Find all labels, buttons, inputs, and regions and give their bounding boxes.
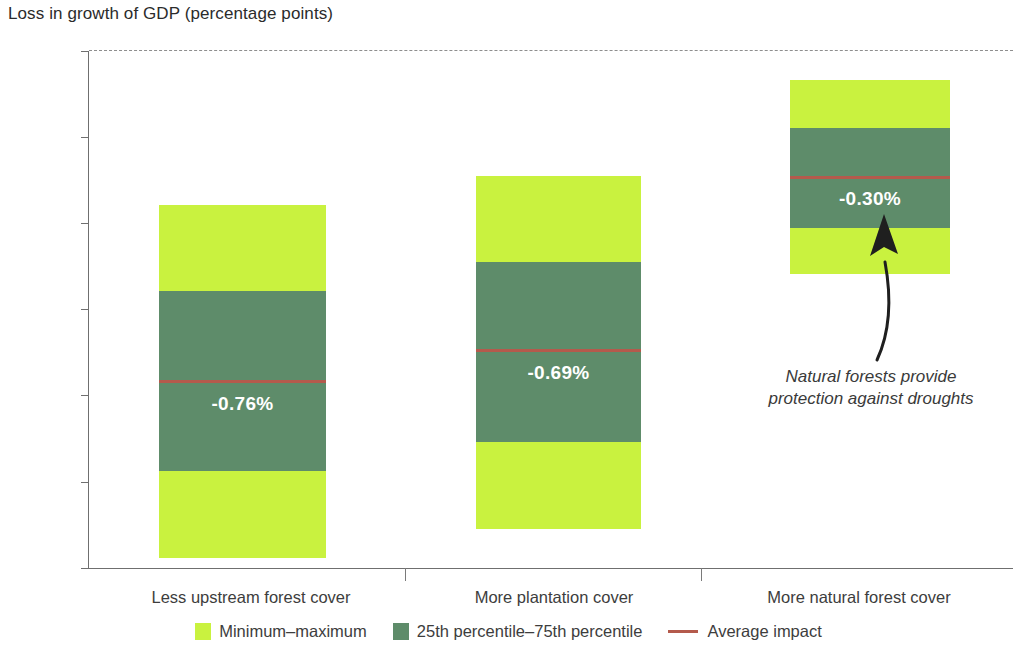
bar-less-upstream-forest-cover: -0.76%: [159, 205, 326, 558]
y-tick-mark: [81, 137, 89, 138]
legend-label-minimum-maximum: Minimum–maximum: [219, 622, 367, 641]
y-axis-line: [88, 51, 89, 569]
chart-title: Loss in growth of GDP (percentage points…: [8, 4, 333, 24]
average-impact-value-label: -0.76%: [159, 393, 326, 415]
bar-more-plantation-cover: -0.69%: [476, 176, 641, 529]
y-tick-mark: [81, 309, 89, 310]
y-tick-mark: [81, 395, 89, 396]
legend-label-average-impact: Average impact: [707, 622, 821, 641]
chart-root: Loss in growth of GDP (percentage points…: [0, 0, 1017, 649]
annotation-label: Natural forests provide protection again…: [728, 366, 1014, 411]
zero-reference-line: [89, 50, 1013, 51]
legend-label-25th-75th-percentile: 25th percentile–75th percentile: [417, 622, 643, 641]
legend-swatch-minmax-icon: [195, 623, 211, 640]
legend-line-average-icon: [668, 630, 698, 634]
y-tick-mark: [81, 51, 89, 52]
y-tick-mark: [81, 482, 89, 483]
chart-legend: Minimum–maximum 25th percentile–75th per…: [0, 622, 1017, 641]
legend-item-25th-75th-percentile[interactable]: 25th percentile–75th percentile: [393, 622, 643, 641]
y-tick-mark: [81, 223, 89, 224]
x-axis-label-more-natural-forest-cover: More natural forest cover: [704, 588, 1014, 607]
legend-item-average-impact[interactable]: Average impact: [668, 622, 821, 641]
x-axis-label-more-plantation-cover: More plantation cover: [408, 588, 700, 607]
average-impact-line: [790, 176, 950, 179]
range-iqr-bar: [476, 262, 641, 442]
category-separator-1: [405, 568, 406, 581]
category-separator-2: [701, 568, 702, 581]
x-axis-line: [88, 568, 1013, 569]
average-impact-value-label: -0.69%: [476, 362, 641, 384]
x-axis-label-less-upstream-forest-cover: Less upstream forest cover: [96, 588, 406, 607]
legend-item-minimum-maximum[interactable]: Minimum–maximum: [195, 622, 367, 641]
y-tick-mark: [81, 568, 89, 569]
legend-swatch-iqr-icon: [393, 623, 409, 640]
average-impact-line: [476, 349, 641, 352]
average-impact-line: [159, 380, 326, 383]
annotation-arrow-icon: [820, 200, 940, 380]
